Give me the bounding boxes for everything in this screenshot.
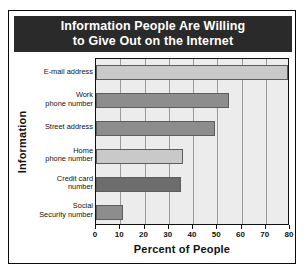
x-axis-tick-label: 60	[229, 230, 253, 239]
x-axis-tick	[95, 225, 96, 229]
x-axis-tick	[144, 225, 145, 229]
chart-title-line-1: Information People Are Willing	[61, 19, 245, 34]
y-axis-tick-labels: E-mail addressWorkphone numberStreet add…	[33, 58, 93, 225]
y-axis-title: Information	[11, 58, 33, 225]
x-axis-tick	[192, 225, 193, 229]
x-axis-tick	[119, 225, 120, 229]
bar-row	[96, 143, 183, 171]
x-axis-tick-labels: 01020304050607080	[95, 230, 289, 242]
x-axis-tick-label: 50	[204, 230, 228, 239]
chart-figure: Information People Are Willing to Give O…	[8, 10, 296, 264]
x-axis-tick-label: 80	[277, 230, 301, 239]
bar-row	[96, 115, 215, 143]
plot-area	[95, 58, 289, 225]
bar-row	[96, 198, 123, 226]
x-axis-tick-label: 0	[83, 230, 107, 239]
x-axis-tick-label: 10	[107, 230, 131, 239]
bar	[96, 121, 215, 136]
y-axis-tick-label: Credit cardnumber	[33, 169, 93, 197]
bar-series	[96, 59, 288, 224]
x-axis-tick	[216, 225, 217, 229]
x-axis-tick	[168, 225, 169, 229]
y-axis-tick-label: Homephone number	[33, 142, 93, 170]
x-axis-title: Percent of People	[69, 243, 295, 255]
x-axis-tick-label: 40	[180, 230, 204, 239]
bar	[96, 65, 288, 80]
y-axis-tick-label: Workphone number	[33, 86, 93, 114]
x-axis-tick	[241, 225, 242, 229]
chart-title: Information People Are Willing to Give O…	[14, 16, 292, 52]
x-axis-tick	[289, 225, 290, 229]
bar	[96, 93, 229, 108]
bar	[96, 177, 181, 192]
y-axis-tick-label: Street address	[33, 114, 93, 142]
y-axis-tick-label: E-mail address	[33, 58, 93, 86]
bar-row	[96, 59, 288, 87]
x-axis-tick-label: 30	[156, 230, 180, 239]
x-axis-tick	[265, 225, 266, 229]
bar	[96, 149, 183, 164]
y-axis-tick-label: SocialSecurity number	[33, 197, 93, 225]
x-axis-tick-label: 70	[253, 230, 277, 239]
y-axis-title-label: Information	[16, 110, 28, 173]
bar	[96, 205, 123, 220]
bar-row	[96, 170, 181, 198]
bar-row	[96, 87, 229, 115]
x-axis-tick-label: 20	[132, 230, 156, 239]
chart-title-line-2: to Give Out on the Internet	[73, 34, 233, 49]
